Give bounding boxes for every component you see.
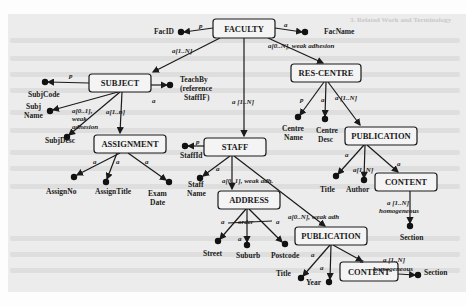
object-class-content-rc: CONTENT (375, 173, 437, 191)
edge-label: a [1..N] (335, 94, 358, 102)
edge-label: a[1..N] (172, 47, 193, 55)
edge-label: a[0..1], weak adh. (222, 177, 274, 185)
attribute-dot-icon (166, 179, 172, 185)
object-class-assignment: ASSIGNMENT (94, 135, 166, 153)
edge-label: a[0..1], (72, 107, 93, 115)
attribute-dot-icon (103, 179, 109, 185)
attribute-dot-icon (215, 238, 221, 244)
object-class-label: ADDRESS (229, 195, 269, 205)
edge-label: a[1..N] (353, 166, 374, 174)
attribute-label: StaffId (180, 151, 203, 160)
attribute-label: Name (187, 189, 206, 198)
object-class-staff: STAFF (204, 138, 266, 156)
attribute-label: TeachBy (180, 75, 208, 84)
edge-label: weak (72, 115, 87, 123)
edge-label: a (152, 97, 156, 105)
attribute-dot-icon (244, 242, 250, 248)
object-class-label: FACULTY (224, 24, 264, 34)
edge-label: order (238, 218, 254, 226)
edge-label: adhesion (72, 123, 98, 131)
edge-label: a[1..n] (106, 108, 126, 116)
attribute-label: FacName (324, 27, 355, 36)
edge-label: p (68, 72, 73, 80)
attribute-label: (reference (180, 84, 213, 93)
attribute-dot-icon (407, 223, 413, 229)
edge-label: a (221, 218, 225, 226)
edge-label: homogeneous (379, 207, 419, 215)
attribute-dot-icon (298, 275, 304, 281)
attribute-label: Centre (282, 124, 305, 133)
attribute-label: Street (203, 249, 223, 258)
attribute-label: Title (276, 269, 292, 278)
edge-label: a (93, 158, 97, 166)
object-class-label: SUBJECT (101, 78, 140, 88)
attribute-label: SubjCode (28, 90, 60, 99)
attribute-label: Title (320, 185, 336, 194)
edge-label: homogeneous (373, 265, 413, 273)
attribute-label: AssignTitle (95, 187, 132, 196)
edge-label: a [1..N] (387, 199, 410, 207)
object-classes: FACULTYSUBJECTRES-CENTREASSIGNMENTSTAFFP… (89, 19, 437, 281)
attribute-label: FacID (154, 27, 175, 36)
object-class-publication-st: PUBLICATION (295, 227, 367, 245)
attribute-dot-icon (302, 29, 308, 35)
attribute-dot-icon (415, 272, 421, 278)
attribute-dot-icon (178, 29, 184, 35)
edge-label: a [1..N] (232, 98, 255, 106)
object-class-label: PUBLICATION (301, 231, 361, 241)
attribute-label: Exam (148, 189, 168, 198)
object-class-address: ADDRESS (218, 191, 280, 209)
edge-label: a[0..N], weak adhesion (268, 42, 334, 50)
edge-label: a (216, 165, 220, 173)
attribute-label: Author (346, 185, 370, 194)
attribute-label: Postcode (271, 251, 300, 260)
attribute-label: Name (24, 111, 43, 120)
attribute-label: Centre (316, 126, 339, 135)
attribute-dot-icon (42, 79, 48, 85)
edge-label: a (238, 235, 242, 243)
object-class-label: STAFF (222, 142, 248, 152)
attribute-dot-icon (71, 174, 77, 180)
attribute-label: Suburb (236, 251, 260, 260)
attribute-dot-icon (322, 116, 328, 122)
attribute-dot-icon (333, 173, 339, 179)
edge-label: a (320, 264, 324, 272)
attribute-dot-icon (282, 241, 288, 247)
edge-label: a (345, 151, 349, 159)
edge-label: a (360, 257, 364, 265)
edge-label: a (397, 160, 401, 168)
schema-diagram: FACULTYSUBJECTRES-CENTREASSIGNMENTSTAFFP… (0, 0, 466, 306)
attribute-label: Year (306, 278, 322, 287)
edge-label: p (299, 96, 304, 104)
object-class-faculty: FACULTY (213, 19, 275, 38)
attribute-label: Section (424, 268, 448, 277)
attribute-label: Date (150, 198, 166, 207)
attribute-dot-icon (167, 82, 173, 88)
attribute-label: StaffIF) (184, 93, 210, 102)
attribute-dot-icon (361, 177, 367, 183)
page: 3. Related Work and Terminology (0, 0, 466, 306)
attribute-dot-icon (182, 143, 188, 149)
edge-label: a (276, 218, 280, 226)
object-class-label: CONTENT (385, 177, 427, 187)
attribute-dot-icon (47, 108, 53, 114)
object-class-label: RES-CENTRE (299, 68, 354, 78)
attribute-label: Section (400, 233, 424, 242)
attribute-dot-icon (326, 279, 332, 285)
edge-label: p (198, 22, 203, 30)
attribute-label: SubjDesc (45, 136, 76, 145)
object-class-label: ASSIGNMENT (101, 139, 158, 149)
object-class-subject: SUBJECT (89, 74, 151, 92)
object-class-res-centre: RES-CENTRE (291, 64, 361, 82)
edge-label: a (116, 158, 120, 166)
edge-label: a (145, 158, 149, 166)
edge-label: a [1..N] (383, 256, 406, 264)
edge-label: a (311, 251, 315, 259)
edge-label: a[0..N], weak adh (288, 213, 339, 221)
attribute-dot-icon (295, 114, 301, 120)
attribute-label: Staff (188, 180, 204, 189)
attribute-label: Subj (26, 102, 42, 111)
object-class-publication-rc: PUBLICATION (345, 127, 417, 145)
edge-label: a (284, 21, 288, 29)
attribute-label: Desc (318, 135, 334, 144)
